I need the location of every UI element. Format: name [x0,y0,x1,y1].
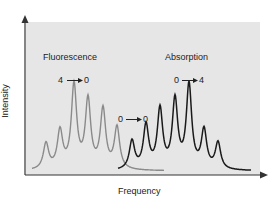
x-axis-arrow-icon [260,172,268,179]
a-from: 0 [174,75,179,85]
absorption-label: Absorption [165,52,208,62]
y-axis-label: Intensity [0,84,10,118]
spectrum-chart [0,0,270,210]
zz-to: 0 [143,114,148,124]
a-to: 4 [199,75,204,85]
y-axis-arrow-icon [22,15,29,23]
zz-from: 0 [118,114,123,124]
f-to: 0 [84,75,89,85]
fluorescence-label: Fluorescence [43,52,97,62]
f-from: 4 [58,75,63,85]
plot-background [26,22,260,175]
x-axis-label: Frequency [118,186,161,196]
